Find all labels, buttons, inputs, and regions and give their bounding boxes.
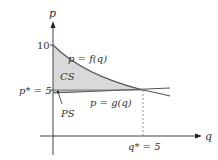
q-axis-arrow-icon (195, 134, 202, 139)
ps-pointer-dot (57, 91, 59, 93)
producer-surplus-label: PS (60, 108, 75, 119)
p-axis-label: p (49, 7, 56, 20)
q-star-label: q* = 5 (128, 141, 161, 152)
supply-curve-label: p = g(q) (90, 97, 132, 108)
diagram-canvas: p q 10 p* = 5 q* = 5 p = f(q) p = g(q) C… (0, 0, 218, 160)
consumer-surplus-region (53, 45, 143, 90)
p-axis-arrow-icon (51, 21, 56, 28)
p-ten-label: 10 (37, 40, 50, 51)
consumer-surplus-label: CS (60, 71, 75, 82)
surplus-diagram: p q 10 p* = 5 q* = 5 p = f(q) p = g(q) C… (0, 0, 218, 160)
p-star-label: p* = 5 (19, 85, 52, 96)
q-axis-label: q (205, 130, 212, 143)
ps-pointer-line (58, 92, 62, 104)
demand-curve-label: p = f(q) (68, 53, 107, 64)
